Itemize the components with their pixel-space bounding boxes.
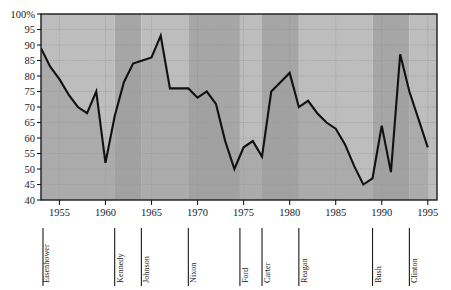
x-axis-ticks	[59, 200, 427, 205]
president-label-reagan: Reagan	[300, 258, 309, 283]
y-tick-label-90: 90	[25, 40, 36, 51]
x-tick-label-1955: 1955	[49, 207, 70, 218]
y-tick-label-75: 75	[25, 86, 36, 97]
y-tick-label-45: 45	[25, 179, 36, 190]
approval-rating-chart: 100%959085807570656055504540 19551960196…	[0, 0, 451, 290]
x-tick-label-1960: 1960	[95, 207, 116, 218]
y-tick-label-50: 50	[25, 164, 36, 175]
x-tick-label-1975: 1975	[233, 207, 254, 218]
president-divider-lines	[43, 228, 409, 286]
y-tick-label-65: 65	[25, 117, 36, 128]
x-tick-label-1995: 1995	[417, 207, 438, 218]
x-tick-label-1990: 1990	[371, 207, 392, 218]
president-label-johnson: Johnson	[142, 256, 151, 283]
y-tick-label-95: 95	[25, 24, 36, 35]
y-axis-tick-labels: 100%959085807570656055504540	[11, 9, 36, 206]
y-tick-label-80: 80	[25, 71, 36, 82]
president-label-ford: Ford	[241, 268, 250, 283]
x-tick-label-1965: 1965	[141, 207, 162, 218]
president-label-nixon: Nixon	[189, 263, 198, 283]
chart-canvas: 100%959085807570656055504540 19551960196…	[0, 0, 451, 290]
y-tick-label-85: 85	[25, 55, 36, 66]
x-axis-tick-labels: 195519601965197019751980198519901995	[49, 207, 438, 218]
y-tick-label-70: 70	[25, 102, 36, 113]
y-tick-label-60: 60	[25, 133, 36, 144]
y-tick-label-40: 40	[25, 195, 36, 206]
president-label-bush: Bush	[374, 266, 383, 283]
president-label-carter: Carter	[263, 262, 272, 283]
x-tick-label-1985: 1985	[325, 207, 346, 218]
president-label-clinton: Clinton	[410, 258, 419, 283]
x-tick-label-1970: 1970	[187, 207, 208, 218]
president-labels: EisenhowerKennedyJohnsonNixonFordCarterR…	[42, 244, 419, 283]
president-label-kennedy: Kennedy	[116, 253, 125, 283]
y-tick-label-55: 55	[25, 148, 36, 159]
x-tick-label-1980: 1980	[279, 207, 300, 218]
president-label-eisenhower: Eisenhower	[42, 244, 51, 283]
y-tick-label-100: 100%	[11, 9, 36, 20]
